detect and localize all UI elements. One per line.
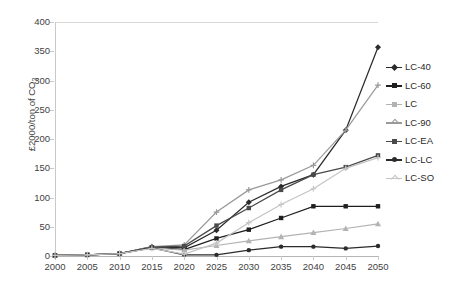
x-axis-tick-mark <box>313 256 314 260</box>
y-axis-tick-mark <box>50 81 54 82</box>
y-axis-tick-mark <box>50 110 54 111</box>
x-axis-tick-mark <box>217 256 218 260</box>
x-axis-tick-mark <box>120 256 121 260</box>
legend-swatch-icon <box>386 173 402 183</box>
plot-area <box>55 22 378 256</box>
chart-container: 050100150200250300350400 £2000/ton of CO… <box>0 0 451 297</box>
x-axis-tick-mark <box>378 256 379 260</box>
y-axis-tick-mark <box>50 256 54 257</box>
legend-label: LC-60 <box>405 81 431 91</box>
y-axis-tick-label: 400 <box>22 17 50 27</box>
y-axis-tick-mark <box>50 198 54 199</box>
y-axis-tick-mark <box>50 22 54 23</box>
legend-item-lc-90[interactable]: LC-90 <box>386 114 451 133</box>
x-axis-tick-mark <box>346 256 347 260</box>
legend-label: LC-EA <box>405 136 433 146</box>
y-axis-title-text: £2000/ton of CO <box>26 82 37 152</box>
legend-swatch-icon <box>386 118 402 128</box>
legend-swatch-icon <box>386 81 402 91</box>
legend-label: LC <box>405 99 417 109</box>
legend-item-lc-ea[interactable]: LC-EA <box>386 132 451 151</box>
legend-swatch-icon <box>386 136 402 146</box>
legend-label: LC-40 <box>405 62 431 72</box>
legend: LC-40LC-60LCLC-90LC-EALC-LCLC-SO <box>386 58 451 188</box>
x-axis-tick-mark <box>87 256 88 260</box>
legend-swatch-icon <box>386 155 402 165</box>
legend-label: LC-SO <box>405 173 434 183</box>
x-axis-tick-mark <box>281 256 282 260</box>
y-axis-tick-label: 100 <box>22 193 50 203</box>
x-axis-tick-mark <box>184 256 185 260</box>
y-axis-tick-label: 50 <box>22 222 50 232</box>
y-axis-title-subscript: 2 <box>31 78 38 82</box>
x-axis-tick-mark <box>152 256 153 260</box>
legend-swatch-icon <box>386 99 402 109</box>
legend-item-lc-lc[interactable]: LC-LC <box>386 151 451 170</box>
legend-swatch-icon <box>386 62 402 72</box>
y-axis-tick-mark <box>50 51 54 52</box>
y-axis-tick-label: 0 <box>22 251 50 261</box>
y-axis-tick-mark <box>50 168 54 169</box>
x-axis-tick-label: 2050 <box>358 262 398 272</box>
legend-item-lc-40[interactable]: LC-40 <box>386 58 451 77</box>
legend-label: LC-90 <box>405 118 431 128</box>
x-axis-tick-mark <box>55 256 56 260</box>
legend-item-lc-60[interactable]: LC-60 <box>386 77 451 96</box>
y-axis-tick-mark <box>50 139 54 140</box>
legend-item-lc-so[interactable]: LC-SO <box>386 169 451 188</box>
y-axis-title: £2000/ton of CO2 <box>26 54 39 174</box>
legend-label: LC-LC <box>405 155 432 165</box>
legend-item-lc[interactable]: LC <box>386 95 451 114</box>
y-axis-tick-mark <box>50 227 54 228</box>
x-axis-tick-mark <box>249 256 250 260</box>
